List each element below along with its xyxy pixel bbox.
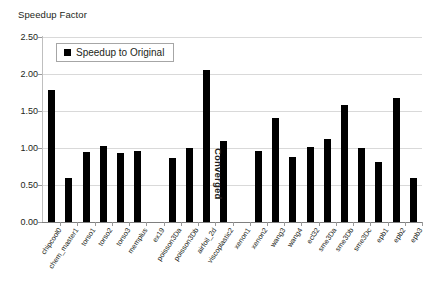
legend-label: Speedup to Original <box>76 47 164 58</box>
x-axis-tick-label: xenon2 <box>249 226 270 251</box>
x-axis-tick <box>353 222 354 226</box>
y-axis-tick-label: 0.00 <box>4 217 38 227</box>
y-axis-labels: 2.502.001.501.000.500.00 <box>0 0 38 298</box>
bar <box>410 178 417 222</box>
y-axis-tick-label: 2.00 <box>4 69 38 79</box>
x-axis-tick-label: wang4 <box>285 226 304 249</box>
x-axis-tick <box>233 222 234 226</box>
x-axis-tick-label: wang3 <box>268 226 287 249</box>
x-axis-tick-label: torso2 <box>96 226 115 248</box>
converged-annotation: Converged <box>213 148 224 199</box>
bar <box>272 118 279 222</box>
bar <box>307 147 314 222</box>
bar <box>393 98 400 222</box>
bar <box>289 157 296 222</box>
bar <box>186 148 193 222</box>
bar <box>358 148 365 222</box>
bar <box>83 152 90 222</box>
x-axis-tick-label: xenon1 <box>232 226 253 251</box>
x-axis-tick-label: epb3 <box>408 226 424 244</box>
legend-swatch-icon <box>64 49 71 56</box>
x-axis-tick <box>129 222 130 226</box>
gridline <box>43 111 422 112</box>
y-axis-tick-label: 0.50 <box>4 180 38 190</box>
x-axis-tick-label: ex19 <box>150 226 166 244</box>
x-axis-tick-label: epb2 <box>391 226 407 244</box>
bar <box>100 146 107 222</box>
y-axis-tick-label: 1.00 <box>4 143 38 153</box>
x-axis-tick <box>77 222 78 226</box>
bar <box>48 90 55 222</box>
x-axis-tick <box>112 222 113 226</box>
bar <box>324 139 331 222</box>
plot-area <box>43 37 422 222</box>
bar <box>341 105 348 222</box>
x-axis-tick <box>250 222 251 226</box>
bar <box>134 151 141 222</box>
x-axis-tick <box>164 222 165 226</box>
bar <box>169 158 176 222</box>
x-axis-tick <box>198 222 199 226</box>
x-axis-tick <box>146 222 147 226</box>
x-axis-tick <box>370 222 371 226</box>
x-axis-tick <box>267 222 268 226</box>
chart-legend: Speedup to Original <box>56 43 174 62</box>
y-axis-tick-label: 1.50 <box>4 106 38 116</box>
bar <box>255 151 262 222</box>
x-axis-tick <box>388 222 389 226</box>
x-axis-tick <box>215 222 216 226</box>
x-axis-tick <box>405 222 406 226</box>
bar <box>117 153 124 222</box>
x-axis-tick-label: epb1 <box>374 226 390 244</box>
x-axis-tick <box>336 222 337 226</box>
y-axis-tick-label: 2.50 <box>4 32 38 42</box>
bar-chart: Speedup Factor 2.502.001.501.000.500.00 … <box>0 0 427 298</box>
x-axis-tick <box>284 222 285 226</box>
x-axis-tick <box>181 222 182 226</box>
bar <box>65 178 72 222</box>
gridline <box>43 37 422 38</box>
x-axis-tick <box>301 222 302 226</box>
bar <box>203 70 210 222</box>
x-axis-labels: chipcool0chem_master1torso1torso2torso3m… <box>43 222 423 298</box>
x-axis-tick-label: torso1 <box>79 226 98 248</box>
x-axis-tick <box>319 222 320 226</box>
gridline <box>43 74 422 75</box>
x-axis-tick <box>422 222 423 226</box>
x-axis-tick <box>95 222 96 226</box>
bar <box>375 162 382 222</box>
x-axis-tick <box>60 222 61 226</box>
